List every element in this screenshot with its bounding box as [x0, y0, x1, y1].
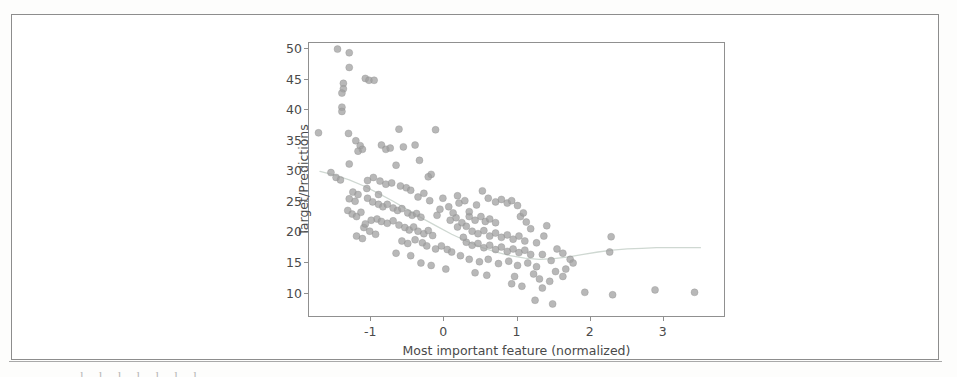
y-tick-label: 40	[286, 102, 302, 117]
scatter-point	[334, 46, 341, 53]
scatter-point	[388, 179, 395, 186]
scatter-point	[539, 251, 546, 258]
scatter-point	[404, 240, 411, 247]
x-tick-label: -1	[364, 324, 376, 339]
scatter-point	[407, 252, 414, 259]
scatter-point	[393, 250, 400, 257]
scatter-point	[370, 174, 377, 181]
x-tick-label: 2	[586, 324, 594, 339]
scatter-point	[420, 190, 427, 197]
scatter-point	[483, 272, 490, 279]
y-axis-label: Target/Predictions	[296, 124, 311, 236]
scatter-point	[412, 236, 419, 243]
scatter-point	[476, 258, 483, 265]
y-tick-mark	[304, 48, 308, 49]
scatter-point	[549, 300, 556, 307]
scatter-point	[485, 256, 492, 263]
scatter-point	[546, 278, 553, 285]
x-tick-mark	[590, 317, 591, 321]
scatter-point	[691, 289, 698, 296]
scatter-point	[524, 260, 531, 267]
figure-frame: -10123 101520253035404550 Most important…	[11, 14, 939, 360]
axes-frame	[308, 42, 725, 317]
scatter-point	[429, 232, 436, 239]
scatter-point	[511, 273, 518, 280]
scatter-point	[504, 231, 511, 238]
scatter-point	[445, 203, 452, 210]
scatter-point	[543, 222, 550, 229]
scatter-point	[474, 240, 481, 247]
scatter-point	[372, 231, 379, 238]
scan-artifact-line	[9, 361, 942, 362]
y-tick-label: 10	[286, 285, 302, 300]
scatter-point	[492, 219, 499, 226]
x-tick-label: 0	[439, 324, 447, 339]
scatter-point	[515, 233, 522, 240]
scatter-point	[450, 209, 457, 216]
scatter-point	[407, 187, 414, 194]
scatter-point	[355, 148, 362, 155]
scatter-point	[346, 64, 353, 71]
scanned-page: -10123 101520253035404550 Most important…	[0, 0, 957, 377]
scatter-point	[466, 256, 473, 263]
scatter-point	[527, 225, 534, 232]
scatter-point	[417, 214, 424, 221]
scatter-point	[346, 161, 353, 168]
scatter-point	[398, 205, 405, 212]
scatter-point	[425, 173, 432, 180]
scatter-point	[387, 145, 394, 152]
scatter-point	[609, 291, 616, 298]
scatter-point	[432, 126, 439, 133]
scatter-point	[554, 245, 561, 252]
scatter-point	[552, 268, 559, 275]
y-tick-mark	[304, 262, 308, 263]
scatter-point	[355, 191, 362, 198]
scatter-point	[559, 273, 566, 280]
scatter-point	[486, 242, 493, 249]
scatter-point	[460, 234, 467, 241]
scatter-point	[508, 197, 515, 204]
scatter-point	[548, 257, 555, 264]
y-tick-label: 50	[286, 41, 302, 56]
clipped-body-text: l l l l l l l	[80, 369, 880, 377]
scatter-point	[530, 271, 537, 278]
scatter-point	[533, 263, 540, 270]
scatter-point	[514, 202, 521, 209]
scatter-point	[495, 260, 502, 267]
scatter-point	[337, 176, 344, 183]
x-tick-mark	[443, 317, 444, 321]
y-tick-mark	[304, 109, 308, 110]
scatter-point	[562, 266, 569, 273]
scatter-plot: -10123 101520253035404550 Most important…	[308, 42, 725, 317]
y-tick-label: 45	[286, 71, 302, 86]
scatter-point	[457, 252, 464, 259]
scatter-point	[357, 209, 364, 216]
scatter-point	[428, 262, 435, 269]
scatter-point	[463, 223, 470, 230]
scatter-point	[521, 238, 528, 245]
scatter-point	[540, 233, 547, 240]
scatter-point	[359, 235, 366, 242]
scatter-point	[514, 262, 521, 269]
scatter-point	[518, 283, 525, 290]
scatter-point	[423, 242, 430, 249]
scatter-point	[395, 126, 402, 133]
scatter-point	[417, 260, 424, 267]
scatter-point	[338, 108, 345, 115]
scatter-point	[390, 217, 397, 224]
scatter-point	[434, 212, 441, 219]
scatter-point	[492, 230, 499, 237]
y-tick-label: 15	[286, 255, 302, 270]
y-tick-mark	[304, 79, 308, 80]
scatter-point	[570, 260, 577, 267]
scatter-point	[532, 297, 539, 304]
scatter-point	[447, 217, 454, 224]
scatter-points-layer	[309, 43, 725, 317]
scatter-point	[539, 285, 546, 292]
y-tick-mark	[304, 293, 308, 294]
scatter-point	[521, 247, 528, 254]
scatter-point	[466, 208, 473, 215]
x-tick-mark	[663, 317, 664, 321]
scatter-point	[480, 227, 487, 234]
x-axis-label: Most important feature (normalized)	[308, 343, 725, 358]
